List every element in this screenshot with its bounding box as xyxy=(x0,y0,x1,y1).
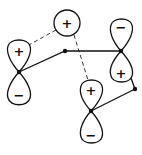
dashed-overlap-left xyxy=(27,30,56,46)
sign-lower: − xyxy=(14,88,25,103)
atom-center xyxy=(63,49,67,53)
sign-upper: − xyxy=(116,20,127,35)
s-orbital-sign: + xyxy=(62,16,73,31)
sign-lower: + xyxy=(116,66,127,81)
atom-right xyxy=(119,49,123,53)
sign-upper: + xyxy=(14,44,25,59)
s-orbital: + xyxy=(54,10,80,36)
atom-bottom xyxy=(89,109,93,113)
sign-upper: + xyxy=(86,83,97,98)
orbital-diagram: + + − − + + − xyxy=(0,0,142,155)
sign-lower: − xyxy=(86,128,97,143)
dashed-overlap-bottom xyxy=(74,35,88,80)
atom-left xyxy=(17,70,21,74)
atom-far-right xyxy=(133,87,137,91)
